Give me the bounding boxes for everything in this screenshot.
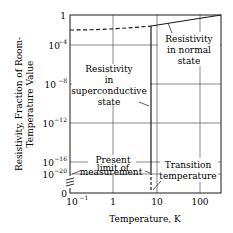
svg-text:temperature: temperature bbox=[159, 171, 216, 181]
arrow-icon bbox=[168, 23, 172, 33]
y-tick-1e-12: 10 bbox=[43, 119, 55, 129]
axis-break-icon bbox=[66, 176, 74, 188]
y-tick-1e-16: 10 bbox=[43, 158, 55, 168]
annotation-limit-of-measurement: Present limit of measurement bbox=[72, 155, 150, 191]
svg-text:Resistivity: Resistivity bbox=[85, 64, 133, 74]
normal-state-line bbox=[151, 15, 221, 26]
svg-text:measurement: measurement bbox=[80, 167, 143, 177]
y-tick-1e-16-exp: −16 bbox=[54, 155, 67, 162]
normal-extrapolated-dashed-line bbox=[70, 26, 151, 30]
x-tick-1: 1 bbox=[110, 197, 116, 207]
svg-text:in normal: in normal bbox=[167, 45, 211, 55]
x-tick-labels: 10 −1 1 10 100 bbox=[66, 194, 209, 207]
svg-text:state: state bbox=[98, 97, 121, 107]
annotation-superconductive-state: Resistivity in superconductive state bbox=[71, 64, 150, 107]
x-tick-10: 10 bbox=[151, 197, 163, 207]
y-axis-label-line1: Resistivity, Fraction of Room- bbox=[14, 37, 24, 171]
resistivity-chart: 1 10 −4 10 −8 10 −12 10 −16 10 −20 0 10 … bbox=[0, 0, 233, 233]
y-tick-1e-20-exp: −20 bbox=[54, 167, 67, 174]
svg-text:state: state bbox=[178, 56, 201, 66]
y-axis-label-line2: Temperature Value bbox=[25, 61, 35, 148]
svg-text:Resistivity: Resistivity bbox=[165, 34, 213, 44]
svg-text:Transition: Transition bbox=[165, 160, 212, 170]
x-tick-0.1: 10 bbox=[66, 197, 78, 207]
x-tick-0.1-exp: −1 bbox=[80, 194, 89, 201]
annotation-normal-state: Resistivity in normal state bbox=[158, 23, 220, 66]
svg-text:in: in bbox=[105, 75, 114, 85]
y-tick-1e-8: 10 bbox=[45, 80, 57, 90]
x-tick-100: 100 bbox=[191, 197, 208, 207]
y-tick-labels: 1 10 −4 10 −8 10 −12 10 −16 10 −20 0 bbox=[43, 11, 68, 199]
annotation-transition-temperature: Transition temperature bbox=[153, 158, 218, 190]
y-tick-1e-8-exp: −8 bbox=[58, 77, 67, 84]
y-tick-1e-20: 10 bbox=[43, 170, 55, 180]
x-axis-label: Temperature, K bbox=[109, 214, 181, 224]
y-tick-1: 1 bbox=[60, 11, 66, 21]
y-axis-label: Resistivity, Fraction of Room- Temperatu… bbox=[14, 37, 35, 171]
y-tick-1e-12-exp: −12 bbox=[54, 116, 67, 123]
y-tick-1e-4-exp: −4 bbox=[58, 38, 67, 45]
svg-text:superconductive: superconductive bbox=[71, 86, 147, 96]
